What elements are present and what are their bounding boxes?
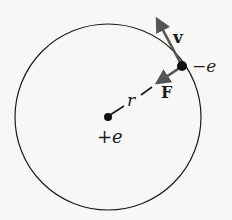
force-label: F [161,83,173,102]
velocity-label: v [172,27,184,47]
electron-dot [177,61,187,71]
electron-charge-label: −e [192,56,216,76]
radius-label: r [127,90,136,110]
radius-line-segment [110,106,124,115]
orbit-diagram: v −e F r +e [0,0,232,220]
nucleus-dot [104,113,112,121]
force-arrow [157,67,181,83]
nucleus-charge-label: +e [97,126,123,147]
radius-line-segment [141,87,152,95]
